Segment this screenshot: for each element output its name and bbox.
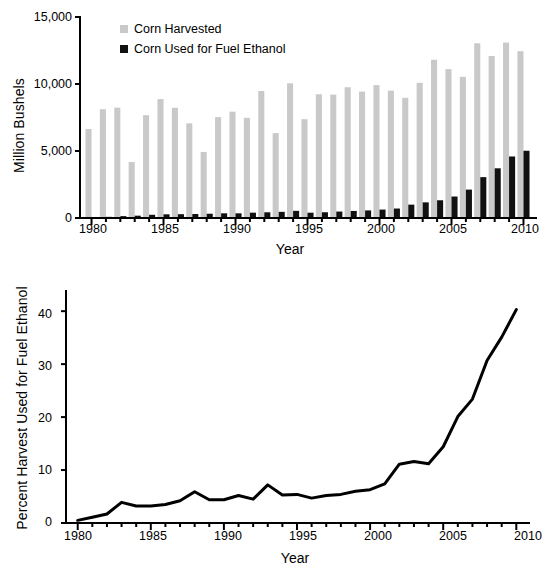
bar-corn-harvested bbox=[489, 56, 495, 218]
bar-corn-ethanol bbox=[466, 190, 472, 218]
top-bar-chart-panel: Million Bushels 15,000 10,000 5,000 0 Co… bbox=[0, 0, 545, 255]
bar-corn-harvested bbox=[388, 91, 394, 218]
bar-corn-harvested bbox=[417, 83, 423, 218]
bar-corn-harvested bbox=[503, 43, 509, 218]
bottom-line-chart-panel: Percent Harvest Used for Fuel Ethanol 40… bbox=[0, 278, 545, 575]
bar-corn-harvested bbox=[114, 108, 120, 218]
top-x-tick-1980: 1980 bbox=[68, 222, 118, 236]
bar-corn-harvested bbox=[215, 117, 221, 218]
bar-corn-harvested bbox=[316, 94, 322, 218]
bar-corn-ethanol bbox=[509, 156, 515, 218]
bar-corn-ethanol bbox=[495, 168, 501, 218]
bar-corn-ethanol bbox=[351, 211, 357, 218]
bottom-x-tick-1990: 1990 bbox=[203, 529, 253, 543]
bar-corn-harvested bbox=[201, 152, 207, 218]
bar-corn-harvested bbox=[431, 60, 437, 218]
bar-corn-ethanol bbox=[523, 151, 529, 218]
percent-ethanol-line bbox=[78, 310, 517, 521]
top-x-tick-1990: 1990 bbox=[212, 222, 262, 236]
top-chart-plot-area bbox=[0, 0, 545, 232]
bottom-x-tick-2000: 2000 bbox=[353, 529, 403, 543]
bottom-x-tick-2005: 2005 bbox=[428, 529, 478, 543]
bar-corn-ethanol bbox=[408, 205, 414, 218]
bar-corn-ethanol bbox=[365, 210, 371, 218]
bar-corn-ethanol bbox=[480, 177, 486, 218]
top-x-tick-2010: 2010 bbox=[500, 222, 545, 236]
bar-corn-harvested bbox=[85, 129, 91, 218]
bar-corn-harvested bbox=[345, 87, 351, 218]
bar-corn-harvested bbox=[287, 83, 293, 218]
bar-corn-harvested bbox=[100, 109, 106, 218]
bar-corn-ethanol bbox=[394, 209, 400, 218]
bar-corn-harvested bbox=[402, 98, 408, 218]
bar-corn-ethanol bbox=[379, 210, 385, 218]
bar-corn-harvested bbox=[517, 51, 523, 218]
bar-corn-ethanol bbox=[293, 211, 299, 218]
bar-corn-harvested bbox=[373, 85, 379, 218]
bar-corn-harvested bbox=[186, 123, 192, 218]
bar-corn-harvested bbox=[460, 77, 466, 218]
top-x-tick-2005: 2005 bbox=[428, 222, 478, 236]
bar-corn-harvested bbox=[258, 91, 264, 218]
figure-root: Million Bushels 15,000 10,000 5,000 0 Co… bbox=[0, 0, 545, 575]
bar-corn-harvested bbox=[330, 95, 336, 218]
bar-corn-harvested bbox=[172, 108, 178, 218]
bottom-x-tick-1980: 1980 bbox=[53, 529, 103, 543]
bar-corn-harvested bbox=[157, 99, 163, 218]
bar-corn-harvested bbox=[445, 69, 451, 218]
bar-corn-harvested bbox=[129, 162, 135, 218]
bottom-x-tick-1995: 1995 bbox=[278, 529, 328, 543]
bar-corn-harvested bbox=[474, 43, 480, 218]
bar-corn-harvested bbox=[244, 118, 250, 218]
bar-corn-harvested bbox=[143, 115, 149, 218]
top-x-tick-2000: 2000 bbox=[356, 222, 406, 236]
bottom-x-tick-2010: 2010 bbox=[503, 529, 545, 543]
top-x-axis-title: Year bbox=[230, 241, 350, 257]
bar-corn-harvested bbox=[229, 112, 235, 218]
top-x-tick-1985: 1985 bbox=[140, 222, 190, 236]
bar-corn-ethanol bbox=[451, 197, 457, 218]
bar-corn-harvested bbox=[359, 92, 365, 218]
bottom-x-tick-1985: 1985 bbox=[128, 529, 178, 543]
bar-corn-ethanol bbox=[423, 202, 429, 218]
bar-corn-harvested bbox=[273, 133, 279, 218]
bar-corn-harvested bbox=[301, 119, 307, 218]
top-x-tick-1995: 1995 bbox=[284, 222, 334, 236]
bar-corn-ethanol bbox=[437, 200, 443, 218]
bottom-chart-plot-area bbox=[0, 278, 545, 538]
bottom-x-axis-title: Year bbox=[235, 550, 355, 566]
